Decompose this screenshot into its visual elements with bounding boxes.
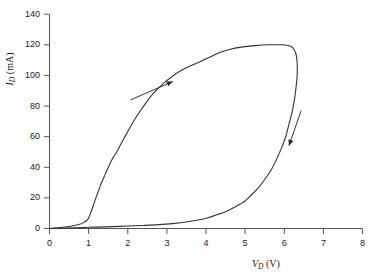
x-tick-label-7: 7: [313, 238, 333, 248]
curve-reverse-sweep: [50, 137, 286, 229]
y-tick-label-60: 60: [8, 131, 40, 141]
x-tick-label-5: 5: [235, 238, 255, 248]
y-axis-title-subscript: D: [8, 77, 17, 82]
x-tick-marks: [50, 229, 363, 235]
x-tick-label-8: 8: [353, 238, 373, 248]
y-tick-label-0: 0: [8, 223, 40, 233]
y-axis-title-unit: (mA): [4, 53, 15, 77]
x-tick-label-4: 4: [196, 238, 216, 248]
y-axis-title-symbol: I: [4, 82, 15, 85]
y-tick-marks: [44, 14, 49, 228]
x-tick-label-1: 1: [79, 238, 99, 248]
y-tick-label-40: 40: [8, 162, 40, 172]
x-tick-label-2: 2: [118, 238, 138, 248]
x-tick-label-3: 3: [157, 238, 177, 248]
y-axis-title: ID (mA): [4, 34, 17, 104]
x-axis-title-unit: (V): [264, 258, 280, 269]
reverse-direction-arrow-head: [288, 139, 293, 146]
y-tick-label-20: 20: [8, 192, 40, 202]
x-axis-title: VD (V): [252, 258, 280, 271]
curve-forward-sweep: [50, 45, 298, 229]
forward-direction-arrow-shaft: [130, 82, 172, 100]
y-tick-label-140: 140: [8, 9, 40, 19]
x-tick-label-0: 0: [40, 238, 60, 248]
x-tick-label-6: 6: [274, 238, 294, 248]
figure-container: 0 20 40 60 80 100 120 140 0 1 2 3 4 5 6 …: [0, 0, 376, 280]
